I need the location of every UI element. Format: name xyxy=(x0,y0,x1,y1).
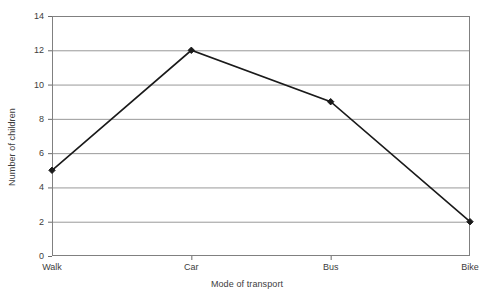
y-axis-title: Number of children xyxy=(7,87,17,207)
line-chart: 02468101214 WalkCarBusBike Number of chi… xyxy=(0,0,494,306)
x-tick-label-bike: Bike xyxy=(461,262,479,272)
x-tick-label-walk: Walk xyxy=(42,262,62,272)
x-tick-label-bus: Bus xyxy=(323,262,339,272)
x-axis-tick-labels: WalkCarBusBike xyxy=(0,0,494,306)
x-tick-label-car: Car xyxy=(184,262,199,272)
x-axis-title: Mode of transport xyxy=(0,279,494,289)
